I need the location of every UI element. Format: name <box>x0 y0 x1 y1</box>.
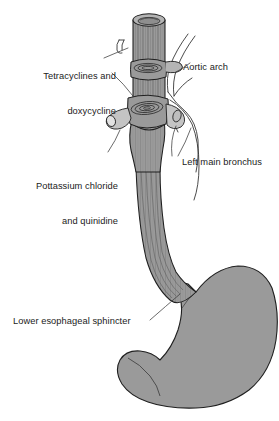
label-potassium-line1: Pottassium chloride <box>6 181 118 193</box>
label-potassium-chloride: Pottassium chloride and quinidine <box>6 158 118 250</box>
leader-bronchus-2 <box>178 128 191 156</box>
figure-canvas: Tetracyclines and doxycycline Pottassium… <box>0 0 279 421</box>
label-tetracyclines-line1: Tetracyclines and <box>10 71 116 83</box>
stomach <box>117 266 277 408</box>
leader-les <box>150 294 180 320</box>
label-lower-esophageal-sphincter: Lower esophageal sphincter <box>13 316 153 328</box>
esophagus-lower <box>136 168 196 303</box>
label-potassium-line2: and quinidine <box>6 216 118 228</box>
label-tetracyclines-line2: doxycycline <box>10 106 116 118</box>
label-left-main-bronchus: Left main bronchus <box>182 157 278 169</box>
leader-bronchus <box>172 126 177 156</box>
label-aortic-arch: Aortic arch <box>183 62 273 74</box>
bronchus-constriction <box>105 95 185 129</box>
label-tetracyclines: Tetracyclines and doxycycline <box>10 48 116 140</box>
aortic-arch-outline <box>167 34 198 172</box>
